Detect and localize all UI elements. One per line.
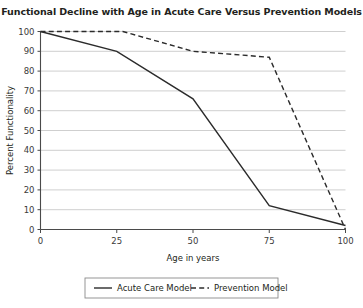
y-tick-label: 70 — [24, 86, 35, 96]
chart-plot: 0102030405060708090100 0255075100 Percen… — [0, 0, 363, 308]
y-tick-label: 50 — [24, 126, 35, 136]
legend-label-prevention-model: Prevention Model — [214, 283, 288, 293]
x-tick-label: 100 — [337, 236, 353, 246]
chart-container: Functional Decline with Age in Acute Car… — [0, 0, 363, 308]
y-tick-label: 0 — [29, 225, 34, 235]
y-tick-label: 20 — [24, 185, 35, 195]
y-tick-labels-group: 0102030405060708090100 — [18, 27, 34, 235]
legend-label-acute-care-model: Acute Care Model — [117, 283, 192, 293]
tick-marks-group — [38, 32, 346, 234]
y-tick-label: 100 — [18, 27, 34, 37]
y-tick-label: 80 — [24, 66, 35, 76]
y-axis-title: Percent Functionality — [5, 86, 15, 175]
x-tick-label: 50 — [188, 236, 199, 246]
gridlines-group — [41, 32, 346, 230]
y-tick-label: 60 — [24, 106, 35, 116]
x-tick-label: 0 — [38, 236, 43, 246]
chart-legend: Acute Care Model Prevention Model — [85, 278, 288, 298]
y-tick-label: 30 — [24, 165, 35, 175]
y-tick-label: 10 — [24, 205, 35, 215]
series-line-acute-care-model — [41, 32, 346, 226]
x-tick-labels-group: 0255075100 — [38, 236, 354, 246]
x-tick-label: 75 — [264, 236, 275, 246]
x-tick-label: 25 — [111, 236, 122, 246]
x-axis-title: Age in years — [167, 253, 221, 263]
y-tick-label: 90 — [24, 46, 35, 56]
y-tick-label: 40 — [24, 145, 35, 155]
